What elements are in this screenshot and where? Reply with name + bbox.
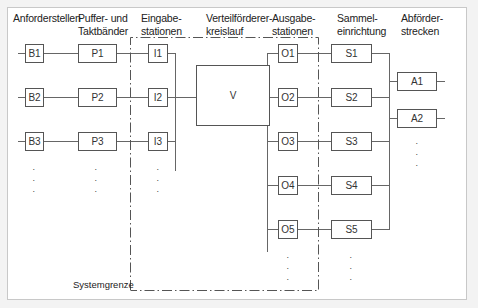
continuation-dots-i: . . . [154, 162, 164, 195]
node-o1: O1 [278, 44, 298, 63]
node-s5: S5 [331, 220, 372, 239]
node-s4: S4 [331, 176, 372, 195]
node-a1: A1 [397, 72, 437, 91]
continuation-dots-s: . . . [347, 250, 357, 283]
node-p3: P3 [78, 132, 117, 151]
node-b2: B2 [25, 88, 44, 107]
node-s3: S3 [331, 132, 372, 151]
node-i3: I3 [148, 132, 168, 151]
node-i1: I1 [148, 44, 168, 63]
node-i2: I2 [148, 88, 168, 107]
continuation-dots-a: . . . [413, 136, 423, 169]
node-s2: S2 [331, 88, 372, 107]
system-boundary-label: Systemgrenze [73, 279, 134, 290]
node-p1: P1 [78, 44, 117, 63]
node-o2: O2 [278, 88, 298, 107]
node-s1: S1 [331, 44, 372, 63]
node-o5: O5 [278, 220, 298, 239]
node-b3: B3 [25, 132, 44, 151]
node-a2: A2 [397, 109, 437, 128]
node-v-verteilfoerderer: V [196, 65, 270, 126]
diagram-canvas: Anforderstellen Puffer- und Taktbänder E… [0, 0, 478, 308]
node-b1: B1 [25, 44, 44, 63]
continuation-dots-p: . . . [92, 162, 102, 195]
continuation-dots-o: . . . [284, 250, 294, 283]
connection-lines [0, 0, 478, 308]
node-p2: P2 [78, 88, 117, 107]
continuation-dots-b: . . . [30, 162, 40, 195]
node-o4: O4 [278, 176, 298, 195]
node-o3: O3 [278, 132, 298, 151]
